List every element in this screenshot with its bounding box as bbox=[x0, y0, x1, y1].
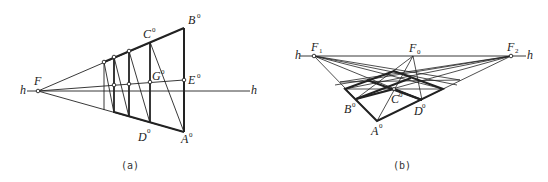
label-f: F bbox=[33, 74, 42, 88]
label-d: D bbox=[137, 130, 147, 144]
label-f2: F bbox=[506, 40, 515, 54]
point-f bbox=[36, 89, 40, 93]
label-c-b-sup: 0 bbox=[399, 91, 403, 99]
label-a-b-sup: 0 bbox=[379, 122, 383, 130]
label-a: A bbox=[180, 132, 189, 146]
point-top-3 bbox=[127, 49, 131, 53]
figure-b bbox=[300, 54, 526, 121]
diagonal-c-a bbox=[150, 42, 184, 132]
grid-b-c bbox=[356, 89, 394, 99]
label-f0-sub: 0 bbox=[417, 48, 421, 56]
label-b-b-sup: 0 bbox=[352, 101, 356, 109]
point-top-2 bbox=[112, 55, 116, 59]
label-f1: F bbox=[310, 40, 319, 54]
label-b-b: B bbox=[344, 102, 352, 116]
label-g: G bbox=[152, 69, 161, 83]
caption-a: (a) bbox=[121, 160, 139, 171]
label-b: B bbox=[188, 13, 196, 27]
figure-a-labels: h h F B 0 C 0 G 0 E 0 D 0 A 0 (a) bbox=[20, 12, 257, 171]
label-c: C bbox=[143, 27, 152, 41]
label-d-sup: 0 bbox=[147, 127, 151, 135]
label-d-b-sup: 0 bbox=[422, 102, 426, 110]
diagonal-2 bbox=[129, 51, 150, 123]
label-h-right-b: h bbox=[527, 48, 533, 62]
label-b-sup: 0 bbox=[197, 12, 201, 20]
point-mid-1 bbox=[112, 83, 116, 87]
point-e bbox=[182, 78, 186, 82]
point-mid-2 bbox=[127, 82, 131, 86]
point-f1 bbox=[312, 54, 316, 58]
diagonal-4 bbox=[104, 62, 114, 113]
label-e-sup: 0 bbox=[197, 72, 201, 80]
diagonal-3 bbox=[114, 57, 129, 117]
point-f2 bbox=[509, 54, 513, 58]
figure-a bbox=[27, 28, 250, 132]
label-h-right-a: h bbox=[251, 83, 257, 97]
caption-b: (b) bbox=[393, 160, 411, 171]
label-a-sup: 0 bbox=[189, 131, 193, 139]
label-a-b: A bbox=[370, 124, 379, 138]
point-c-b bbox=[393, 88, 396, 91]
label-e: E bbox=[187, 73, 196, 87]
label-g-sup: 0 bbox=[161, 68, 165, 76]
label-f2-sub: 2 bbox=[515, 47, 519, 55]
point-top-1 bbox=[102, 60, 106, 64]
label-f0: F bbox=[408, 41, 417, 55]
perspective-diagram: h h F B 0 C 0 G 0 E 0 D 0 A 0 (a) bbox=[0, 0, 548, 182]
label-h-left-a: h bbox=[20, 83, 26, 97]
label-f1-sub: 1 bbox=[319, 47, 323, 55]
label-c-sup: 0 bbox=[152, 26, 156, 34]
label-h-left-b: h bbox=[295, 48, 301, 62]
